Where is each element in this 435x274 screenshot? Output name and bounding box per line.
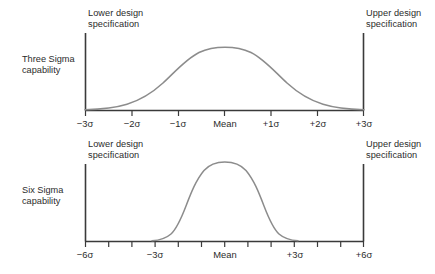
tick-label-plus-1-sigma: +1σ	[263, 118, 279, 129]
tick-label-minus-6-sigma: −6σ	[77, 249, 93, 260]
chart-three-sigma-row-label: Three Sigma capability	[22, 54, 84, 77]
distribution-curve	[85, 47, 364, 109]
chart-three-sigma: Lower design specification Upper design …	[0, 0, 435, 137]
tick-label-plus-3-sigma: +3σ	[287, 249, 303, 260]
distribution-curve	[152, 162, 298, 241]
tick-label-plus-2-sigma: +2σ	[310, 118, 326, 129]
x-axis-ticks	[86, 242, 364, 248]
tick-label-mean: Mean	[213, 118, 236, 129]
lower-spec-label: Lower design specification	[88, 8, 143, 31]
chart-six-sigma: Lower design specification Upper design …	[0, 137, 435, 274]
tick-label-minus-3-sigma: −3σ	[77, 118, 93, 129]
upper-spec-label: Upper design specification	[366, 139, 421, 162]
lower-spec-label: Lower design specification	[88, 139, 143, 162]
figure-root: Lower design specification Upper design …	[0, 0, 435, 274]
tick-label-minus-2-sigma: −2σ	[124, 118, 140, 129]
tick-label-minus-1-sigma: −1σ	[170, 118, 186, 129]
tick-label-minus-3-sigma: −3σ	[147, 249, 163, 260]
chart-six-sigma-row-label: Six Sigma capability	[22, 185, 84, 208]
tick-label-plus-3-sigma: +3σ	[356, 118, 372, 129]
x-axis-ticks	[86, 111, 364, 117]
tick-label-plus-6-sigma: +6σ	[356, 249, 372, 260]
tick-label-mean: Mean	[213, 249, 236, 260]
upper-spec-label: Upper design specification	[366, 8, 421, 31]
